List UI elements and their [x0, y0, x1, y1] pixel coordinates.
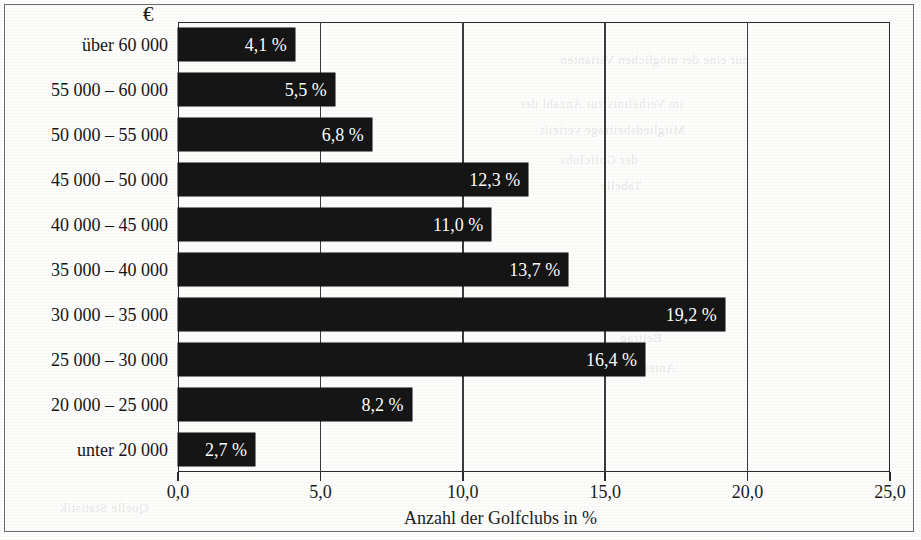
gridline: [604, 22, 606, 472]
category-label: 30 000 – 35 000: [0, 306, 178, 324]
gridline: [747, 22, 749, 472]
category-label: über 60 000: [0, 36, 178, 54]
category-label: 20 000 – 25 000: [0, 396, 178, 414]
category-label: 25 000 – 30 000: [0, 351, 178, 369]
bar: [178, 343, 645, 376]
x-axis-tick: [462, 472, 464, 481]
category-label: 55 000 – 60 000: [0, 81, 178, 99]
x-axis-tick-label: 15,0: [589, 482, 621, 503]
category-label: 40 000 – 45 000: [0, 216, 178, 234]
bar-value-label: 5,5 %: [285, 81, 327, 99]
gridline: [462, 22, 464, 472]
x-axis-tick-label: 5,0: [309, 482, 332, 503]
x-axis-tick: [604, 472, 606, 481]
bar-value-label: 19,2 %: [666, 306, 717, 324]
x-axis-tick-label: 20,0: [732, 482, 764, 503]
bar-value-label: 6,8 %: [322, 126, 364, 144]
category-label: 35 000 – 40 000: [0, 261, 178, 279]
x-axis-title-text: Anzahl der Golfclubs in %: [404, 508, 597, 528]
x-axis-tick-label: 0,0: [167, 482, 190, 503]
bar-value-label: 11,0 %: [433, 216, 483, 234]
x-axis-tick-label: 25,0: [874, 482, 906, 503]
x-axis-tick: [320, 472, 322, 481]
euro-unit-symbol: €: [143, 2, 154, 27]
category-label: unter 20 000: [0, 441, 178, 459]
bar-value-label: 12,3 %: [469, 171, 520, 189]
x-axis-tick-label: 10,0: [447, 482, 479, 503]
chart-screenshot: nur eine der möglichen Varianten im Verh…: [0, 0, 921, 540]
x-axis-title: Anzahl der Golfclubs in %: [0, 508, 921, 529]
x-axis-tick: [747, 472, 749, 481]
bar-value-label: 16,4 %: [586, 351, 637, 369]
bar-value-label: 8,2 %: [362, 396, 404, 414]
bar: [178, 298, 725, 331]
bar-value-label: 13,7 %: [509, 261, 560, 279]
bar-value-label: 2,7 %: [205, 441, 247, 459]
bar-value-label: 4,1 %: [245, 36, 287, 54]
category-label: 50 000 – 55 000: [0, 126, 178, 144]
x-axis-tick: [177, 472, 179, 481]
category-label: 45 000 – 50 000: [0, 171, 178, 189]
x-axis-tick: [889, 472, 891, 481]
